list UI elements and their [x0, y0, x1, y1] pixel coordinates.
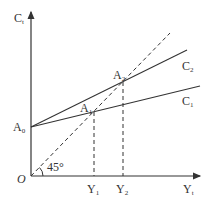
x-axis-label: Yt	[183, 182, 194, 197]
origin-label: O	[17, 172, 26, 186]
curve-c1	[31, 86, 200, 127]
curve-c2	[31, 50, 187, 127]
point-a2-label: A2	[113, 68, 126, 83]
tick-y1-label: Y1	[87, 182, 100, 197]
curve-c1-label: C1	[182, 94, 194, 109]
intercept-label: A0	[13, 120, 26, 135]
angle-arc	[40, 168, 44, 177]
45-degree-line	[31, 33, 170, 176]
y-axis-label: Ct	[14, 11, 24, 26]
point-a1-label: A1	[80, 101, 93, 116]
consumption-diagram: Ct Yt O A0 A1 A2 C1 C2 Y1 Y2 45°	[0, 0, 212, 206]
curve-c2-label: C2	[182, 59, 194, 74]
angle-label: 45°	[47, 160, 64, 174]
tick-y2-label: Y2	[116, 182, 129, 197]
